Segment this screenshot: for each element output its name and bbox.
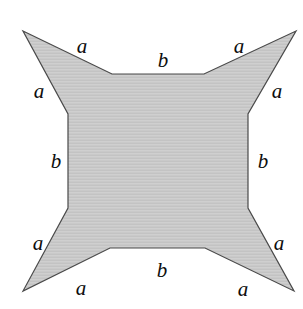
- label-a-left-lower: a: [33, 233, 44, 254]
- label-a-top-right: a: [234, 36, 245, 57]
- label-b-left: b: [51, 151, 62, 172]
- label-a-left-upper: a: [34, 81, 45, 102]
- star-polygon-figure: a a b a a b b a a b a a: [0, 0, 303, 309]
- label-b-top: b: [158, 50, 169, 71]
- label-a-bottom-left: a: [76, 278, 87, 299]
- label-a-bottom-right: a: [238, 279, 249, 300]
- label-b-right: b: [258, 151, 269, 172]
- label-a-right-upper: a: [272, 81, 283, 102]
- label-b-bottom: b: [157, 260, 168, 281]
- label-a-right-lower: a: [274, 233, 285, 254]
- label-a-top-left: a: [77, 36, 88, 57]
